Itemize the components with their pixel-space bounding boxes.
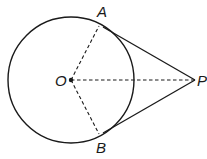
tangent-pb xyxy=(103,80,195,133)
center-point xyxy=(69,78,73,82)
radius-oa xyxy=(71,26,99,80)
label-p: P xyxy=(197,72,207,89)
radius-ob xyxy=(71,80,99,134)
tangent-diagram: A O P B xyxy=(0,0,207,159)
tangent-pa xyxy=(103,27,195,80)
label-a: A xyxy=(96,3,107,20)
label-o: O xyxy=(55,72,67,89)
label-b: B xyxy=(96,139,106,156)
